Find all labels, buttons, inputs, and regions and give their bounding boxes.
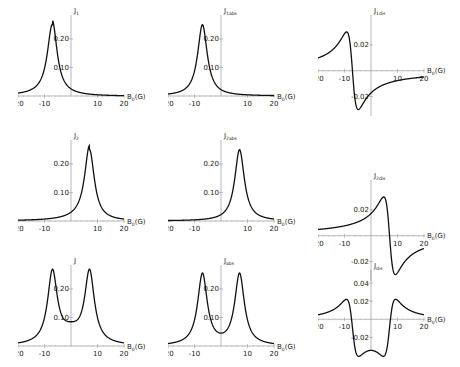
plot-panel-1: -20-1010200.200.10J1B0(G) xyxy=(18,5,148,110)
x-tick-label: -10 xyxy=(39,350,50,358)
x-axis-label: B0(G) xyxy=(277,218,296,227)
x-tick-label: -20 xyxy=(318,323,324,331)
x-tick-label: -10 xyxy=(189,100,200,108)
x-tick-label: 10 xyxy=(393,240,402,248)
x-tick-label: 10 xyxy=(93,350,102,358)
x-tick-label: 20 xyxy=(120,100,129,108)
x-tick-label: -20 xyxy=(168,350,174,358)
plot-panel-9: -20-1010200.040.02-0.02JdisB0(G) xyxy=(318,260,448,365)
x-axis-label: B0(G) xyxy=(127,93,146,102)
x-tick-label: -10 xyxy=(39,100,50,108)
y-tick-label: 0.20 xyxy=(53,160,69,168)
x-tick-label: 10 xyxy=(93,100,102,108)
x-tick-label: -20 xyxy=(18,350,24,358)
plot-panel-5: -20-1010200.200.10J2absB0(G) xyxy=(168,130,298,235)
x-tick-label: 10 xyxy=(243,350,252,358)
y-tick-label: -0.02 xyxy=(351,93,369,101)
y-tick-label: 0.02 xyxy=(353,298,369,306)
x-tick-label: 20 xyxy=(420,75,429,83)
x-tick-label: -10 xyxy=(189,350,200,358)
plot-panel-2: -20-1010200.200.10J1absB0(G) xyxy=(168,5,298,110)
plot-panel-3: -20-1010200.02-0.02J1disB0(G) xyxy=(318,5,448,130)
x-tick-label: 20 xyxy=(270,100,279,108)
x-axis-label: B0(G) xyxy=(127,343,146,352)
y-axis-label: J xyxy=(73,257,76,265)
x-tick-label: -20 xyxy=(318,240,324,248)
x-tick-label: 20 xyxy=(120,350,129,358)
x-axis-label: B0(G) xyxy=(127,218,146,227)
x-tick-label: 20 xyxy=(420,323,429,331)
plot-panel-4: -20-1010200.200.10J2B0(G) xyxy=(18,130,148,235)
x-tick-label: -20 xyxy=(318,75,324,83)
x-tick-label: -10 xyxy=(189,225,200,233)
x-tick-label: 10 xyxy=(243,225,252,233)
x-tick-label: -20 xyxy=(168,100,174,108)
x-tick-label: -20 xyxy=(168,225,174,233)
y-axis-label: J2abs xyxy=(223,132,238,141)
y-axis-label: Jabs xyxy=(223,257,235,266)
y-tick-label: 0.10 xyxy=(203,64,219,72)
plot-panel-8: -20-1010200.200.10JabsB0(G) xyxy=(168,255,298,360)
y-axis-label: J1abs xyxy=(223,7,238,16)
x-axis-label: B0(G) xyxy=(427,232,446,241)
y-axis-label: J2dis xyxy=(373,172,386,181)
x-tick-label: 20 xyxy=(120,225,129,233)
plot-panel-7: -20-1010200.200.10JB0(G) xyxy=(18,255,148,360)
x-tick-label: 10 xyxy=(243,100,252,108)
y-axis-label: J1 xyxy=(73,7,79,16)
x-axis-label: B0(G) xyxy=(427,67,446,76)
x-tick-label: -10 xyxy=(339,240,350,248)
x-tick-label: -20 xyxy=(18,225,24,233)
x-tick-label: 10 xyxy=(93,225,102,233)
x-tick-label: -20 xyxy=(18,100,24,108)
y-tick-label: 0.10 xyxy=(203,189,219,197)
x-tick-label: -10 xyxy=(39,225,50,233)
x-axis-label: B0(G) xyxy=(277,93,296,102)
y-axis-label: Jdis xyxy=(373,262,383,271)
x-tick-label: 20 xyxy=(270,225,279,233)
x-tick-label: 20 xyxy=(420,240,429,248)
x-tick-label: -10 xyxy=(339,75,350,83)
y-tick-label: 0.20 xyxy=(203,160,219,168)
y-tick-label: 0.02 xyxy=(353,206,369,214)
y-axis-label: J1dis xyxy=(373,7,386,16)
y-axis-label: J2 xyxy=(73,132,79,141)
y-tick-label: 0.02 xyxy=(353,41,369,49)
y-tick-label: 0.04 xyxy=(353,280,369,288)
x-tick-label: 20 xyxy=(270,350,279,358)
x-axis-label: B0(G) xyxy=(277,343,296,352)
y-tick-label: 0.10 xyxy=(53,189,69,197)
x-tick-label: -10 xyxy=(339,323,350,331)
x-tick-label: 10 xyxy=(393,323,402,331)
x-axis-label: B0(G) xyxy=(427,316,446,325)
